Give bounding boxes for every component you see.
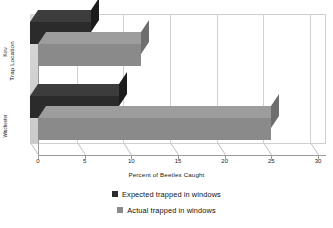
legend-swatch-icon [112, 191, 118, 197]
x-tick-label: 15 [166, 158, 190, 164]
legend-item-actual: Actual trapped in windows [0, 202, 333, 218]
bar-top-face [30, 84, 127, 96]
x-tick-label: 30 [306, 158, 330, 164]
category-label-winchester: Winchester [3, 104, 13, 148]
chart-legend: Expected trapped in windows Actual trapp… [0, 186, 333, 218]
floor-front-edge [38, 155, 326, 156]
legend-label-actual: Actual trapped in windows [127, 206, 215, 215]
x-axis-title: Percent of Beetles Caught [0, 171, 333, 178]
x-tick-label: 5 [73, 158, 97, 164]
floor-back-edge [30, 143, 326, 144]
x-tick-label: 0 [26, 158, 50, 164]
legend-swatch-icon [117, 207, 123, 213]
bar-top-face [38, 32, 149, 44]
bar-front-face [38, 118, 271, 140]
bar-winchester-actual [38, 118, 271, 140]
bar-top-face [38, 106, 279, 118]
legend-item-expected: Expected trapped in windows [0, 186, 333, 202]
x-tick-label: 25 [259, 158, 283, 164]
bar-front-face [38, 44, 141, 66]
legend-label-expected: Expected trapped in windows [122, 190, 221, 199]
y-axis-title: Trap Location [8, 26, 20, 96]
x-tick-label: 20 [213, 158, 237, 164]
bar-kew-actual [38, 44, 141, 66]
bar-chart: 051015202530 Kew Winchester Trap Locatio… [0, 0, 333, 228]
x-tick-label: 10 [119, 158, 143, 164]
gridline [310, 14, 311, 144]
bar-top-face [30, 10, 99, 22]
